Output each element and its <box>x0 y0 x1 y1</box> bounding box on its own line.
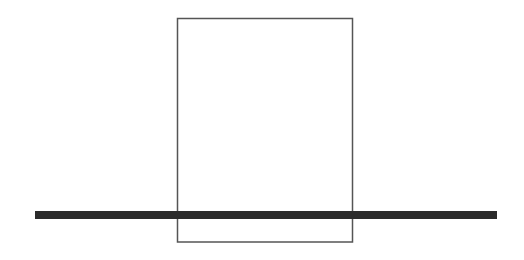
horizontal-bar <box>35 211 497 219</box>
outlined-rectangle <box>178 19 353 243</box>
diagram-canvas <box>0 0 524 260</box>
diagram-svg <box>0 0 524 260</box>
